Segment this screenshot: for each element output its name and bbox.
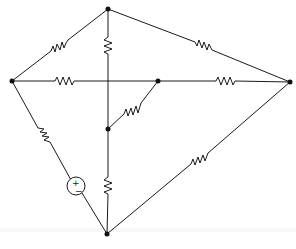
resistor-left-source <box>12 81 71 180</box>
circuit-diagram: + − <box>0 0 296 249</box>
node-left <box>10 79 15 84</box>
resistor-bottom-right <box>107 82 290 234</box>
node-mid-inner <box>106 127 111 132</box>
resistor-diagonal-inner <box>108 81 158 129</box>
resistor-left-top <box>12 9 108 81</box>
resistor-midright-right <box>158 77 290 85</box>
node-bottom <box>105 232 110 237</box>
resistor-inner-bottom <box>104 129 112 234</box>
scan-artifact <box>0 228 296 232</box>
wire-source-bottom <box>82 193 107 234</box>
node-right <box>288 80 293 85</box>
node-top <box>106 7 111 12</box>
resistor-top-right <box>108 9 290 82</box>
source-minus-sign: − <box>75 186 83 196</box>
node-mid-right <box>156 79 161 84</box>
resistor-top-vertical <box>104 9 112 129</box>
resistor-left-horizontal <box>12 77 158 85</box>
